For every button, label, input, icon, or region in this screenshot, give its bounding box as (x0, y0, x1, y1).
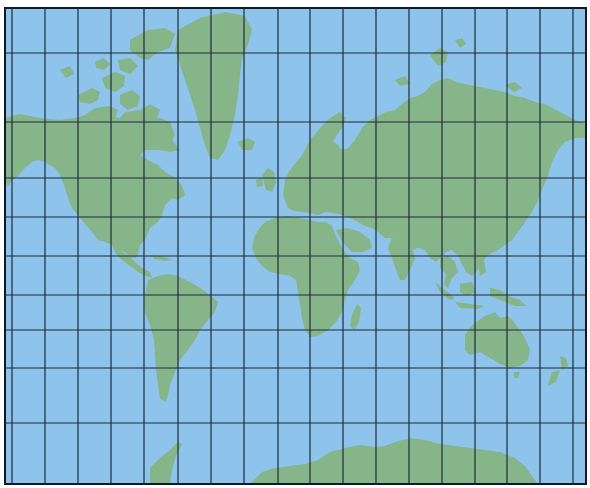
map-canvas (0, 0, 590, 488)
world-map (0, 0, 590, 488)
